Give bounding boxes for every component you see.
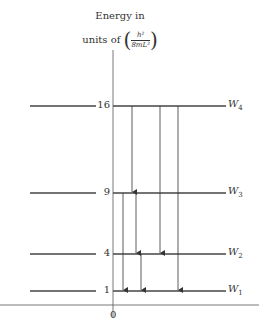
origin-label: 0 bbox=[110, 309, 116, 320]
level-name-label: W3 bbox=[228, 185, 243, 199]
level-name-label: W2 bbox=[228, 246, 243, 260]
level-value-label: 16 bbox=[97, 99, 110, 110]
level-name-label: W4 bbox=[228, 98, 243, 112]
level-value-label: 1 bbox=[104, 284, 110, 295]
level-value-label: 9 bbox=[104, 186, 110, 197]
level-name-label: W1 bbox=[228, 283, 243, 297]
level-value-label: 4 bbox=[104, 247, 110, 258]
energy-level-diagram bbox=[0, 0, 259, 325]
energy-levels bbox=[30, 106, 226, 291]
transition-arrows bbox=[123, 106, 178, 290]
